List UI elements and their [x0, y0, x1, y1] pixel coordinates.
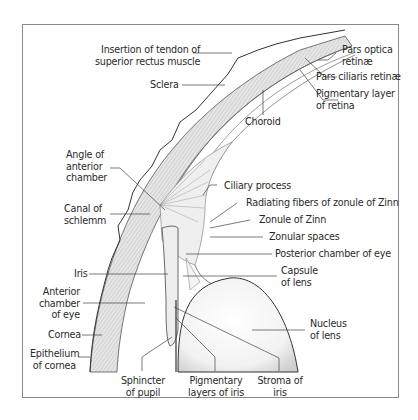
label-line: superior rectus muscle — [95, 56, 200, 68]
label-line: of lens — [310, 330, 347, 342]
label-pigmentary-layer-retina: Pigmentary layer of retina — [316, 88, 395, 111]
label-capsule-lens: Capsule of lens — [281, 265, 318, 288]
label-zonule-zinn: Zonule of Zinn — [259, 214, 326, 226]
label-ciliary-process: Ciliary process — [224, 180, 291, 192]
label-line: Capsule — [281, 265, 318, 277]
label-line: Pars optica — [342, 44, 393, 56]
label-line: schlemm — [64, 215, 102, 227]
label-epithelium-cornea: Epithelium of cornea — [30, 348, 76, 371]
label-line: of pupil — [118, 387, 168, 399]
label-line: Pigmentary — [186, 375, 246, 387]
label-pigmentary-layers-iris: Pigmentary layers of iris — [186, 375, 246, 398]
label-line: chamber — [38, 298, 80, 310]
label-line: Angle of — [66, 149, 102, 161]
label-line: iris — [255, 387, 305, 399]
label-line: of retina — [316, 100, 395, 112]
label-iris: Iris — [74, 268, 88, 280]
label-zonular-spaces: Zonular spaces — [269, 231, 339, 243]
label-line: of eye — [38, 309, 80, 321]
label-line: Epithelium — [30, 348, 76, 360]
label-line: Nucleus — [310, 318, 347, 330]
lens-shape — [178, 278, 298, 372]
label-posterior-chamber: Posterior chamber of eye — [275, 248, 391, 260]
label-line: Stroma of — [255, 375, 305, 387]
label-line: retinæ — [342, 56, 393, 68]
label-stroma-iris: Stroma of iris — [255, 375, 305, 398]
label-sclera: Sclera — [150, 79, 179, 91]
label-canal-schlemm: Canal of schlemm — [64, 203, 102, 226]
label-line: Anterior — [38, 286, 80, 298]
label-line: Sphincter — [118, 375, 168, 387]
label-line: layers of iris — [186, 387, 246, 399]
label-insertion-tendon: Insertion of tendon of superior rectus m… — [95, 44, 200, 67]
label-line: of cornea — [30, 360, 76, 372]
label-choroid: Choroid — [245, 116, 281, 128]
label-radiating-fibers: Radiating fibers of zonule of Zinn — [246, 197, 399, 209]
label-anterior-chamber: Anterior chamber of eye — [38, 286, 80, 321]
label-line: of lens — [281, 277, 318, 289]
label-line: anterior — [66, 161, 102, 173]
label-line: Insertion of tendon of — [95, 44, 200, 56]
label-angle-anterior-chamber: Angle of anterior chamber — [66, 149, 102, 184]
label-pars-ciliaris: Pars ciliaris retinæ — [316, 71, 401, 83]
label-line: Canal of — [64, 203, 102, 215]
label-sphincter-pupil: Sphincter of pupil — [118, 375, 168, 398]
label-nucleus-lens: Nucleus of lens — [310, 318, 347, 341]
label-pars-optica: Pars optica retinæ — [342, 44, 393, 67]
label-line: Pigmentary layer — [316, 88, 395, 100]
label-line: chamber — [66, 172, 102, 184]
label-cornea: Cornea — [48, 329, 81, 341]
